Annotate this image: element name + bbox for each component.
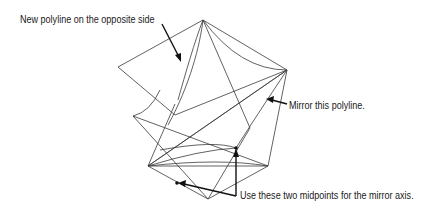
label-mirror-polyline: Mirror this polyline.	[289, 99, 365, 111]
original-polyline	[133, 70, 287, 199]
diagram-canvas: New polyline on the opposite side Mirror…	[0, 0, 444, 217]
callout-new-polyline-arrow	[162, 24, 181, 62]
mirror-polyline-drawing	[0, 0, 444, 217]
label-midpoints: Use these two midpoints for the mirror a…	[240, 189, 414, 201]
label-new-polyline: New polyline on the opposite side	[20, 13, 155, 25]
